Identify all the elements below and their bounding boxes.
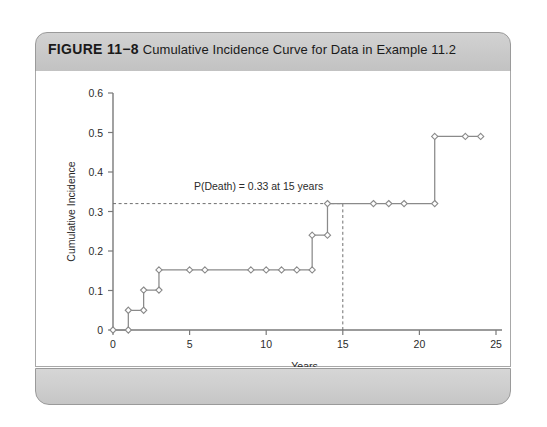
x-tick-label: 10 [260,338,272,350]
data-point-marker [278,267,284,273]
data-point-marker [370,201,376,207]
data-point-marker [462,133,468,139]
data-point-marker [141,307,147,313]
data-point-marker [324,232,330,238]
x-tick-label: 20 [414,338,426,350]
data-point-marker [309,232,315,238]
y-tick-label: 0 [97,324,103,336]
data-point-marker [110,327,116,333]
x-tick-label: 5 [187,338,193,350]
figure-page: FIGURE 11−8 Cumulative Incidence Curve f… [0,0,547,427]
data-point-marker [125,327,131,333]
p-death-annotation: P(Death) = 0.33 at 15 years [194,180,323,192]
data-point-marker [478,133,484,139]
data-point-marker [324,201,330,207]
y-tick-label: 0.3 [88,206,103,218]
y-tick-label: 0.2 [88,245,103,257]
data-point-marker [386,201,392,207]
data-point-marker [187,267,193,273]
data-point-marker [248,267,254,273]
x-tick-label: 15 [337,338,349,350]
cumulative-incidence-chart: 051015202500.10.20.30.40.50.6YearsCumula… [35,71,511,367]
figure-caption: FIGURE 11−8 Cumulative Incidence Curve f… [48,41,508,63]
chart-svg: 051015202500.10.20.30.40.50.6YearsCumula… [35,71,511,367]
figure-number-label: FIGURE 11−8 [48,41,139,57]
figure-title-text: Cumulative Incidence Curve for Data in E… [143,42,456,57]
data-point-marker [294,267,300,273]
y-tick-label: 0.6 [88,87,103,99]
data-point-marker [263,267,269,273]
data-point-marker [156,267,162,273]
data-point-marker [202,267,208,273]
step-line-path [113,136,481,330]
data-point-marker [401,201,407,207]
y-tick-label: 0.4 [88,166,103,178]
x-tick-label: 0 [110,338,116,350]
y-axis-title: Cumulative Incidence [65,161,77,262]
data-point-marker [432,201,438,207]
figure-footer-bar [35,368,511,405]
data-point-marker [432,133,438,139]
x-axis-title: Years [291,360,317,367]
y-tick-label: 0.5 [88,127,103,139]
data-point-marker [141,287,147,293]
y-tick-label: 0.1 [88,285,103,297]
data-point-marker [309,267,315,273]
data-point-marker [125,307,131,313]
data-point-marker [156,287,162,293]
x-tick-label: 25 [490,338,502,350]
